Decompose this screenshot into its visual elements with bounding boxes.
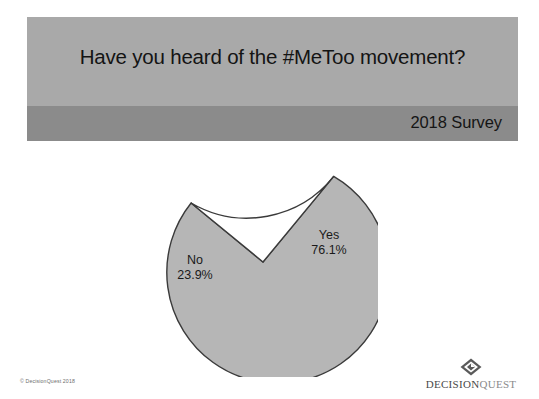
header-banner: Have you heard of the #MeToo movement? 2… — [27, 17, 518, 141]
pie-label-yes-name: Yes — [291, 228, 367, 243]
logo-word-decision: DECISION — [426, 378, 480, 390]
copyright-notice: © DecisionQuest 2018 — [20, 378, 75, 384]
pie-label-no: No 23.9% — [157, 253, 233, 283]
pie-label-no-name: No — [157, 253, 233, 268]
header-subtitle: 2018 Survey — [410, 113, 502, 132]
pie-label-no-value: 23.9% — [157, 268, 233, 283]
logo-word-quest: QUEST — [479, 378, 516, 390]
decisionquest-logo: DECISIONQUEST — [415, 358, 527, 392]
pie-label-yes-value: 76.1% — [291, 243, 367, 258]
logo-wordmark: DECISIONQUEST — [415, 378, 527, 390]
pie-label-yes: Yes 76.1% — [291, 228, 367, 258]
diamond-logo-icon — [460, 358, 482, 376]
slide-canvas: Have you heard of the #MeToo movement? 2… — [0, 0, 539, 399]
pie-chart: Yes 76.1% No 23.9% — [0, 145, 539, 385]
page-title: Have you heard of the #MeToo movement? — [27, 45, 518, 69]
